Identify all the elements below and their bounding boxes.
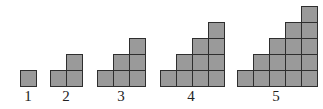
unit-square: [192, 54, 209, 71]
unit-square: [285, 38, 302, 55]
unit-square: [269, 54, 286, 71]
unit-square: [50, 70, 67, 87]
unit-square: [253, 70, 270, 87]
unit-square: [176, 54, 193, 71]
unit-square: [237, 70, 254, 87]
unit-square: [208, 22, 225, 39]
unit-square: [129, 70, 146, 87]
unit-square: [253, 54, 270, 71]
unit-square: [285, 54, 302, 71]
figure-label-1: 1: [13, 88, 43, 105]
unit-square: [285, 22, 302, 39]
unit-square: [192, 38, 209, 55]
unit-square: [269, 70, 286, 87]
unit-square: [66, 70, 83, 87]
figure-label-2: 2: [51, 88, 81, 105]
unit-square: [66, 54, 83, 71]
unit-square: [176, 70, 193, 87]
figure-label-4: 4: [176, 88, 206, 105]
unit-square: [301, 54, 318, 71]
unit-square: [113, 70, 130, 87]
figure-label-5: 5: [261, 88, 291, 105]
unit-square: [129, 38, 146, 55]
figure-label-3: 3: [106, 88, 136, 105]
unit-square: [301, 70, 318, 87]
unit-square: [208, 70, 225, 87]
unit-square: [301, 6, 318, 23]
unit-square: [301, 38, 318, 55]
unit-square: [208, 38, 225, 55]
unit-square: [97, 70, 114, 87]
unit-square: [129, 54, 146, 71]
unit-square: [208, 54, 225, 71]
unit-square: [20, 70, 37, 87]
unit-square: [113, 54, 130, 71]
unit-square: [269, 38, 286, 55]
unit-square: [285, 70, 302, 87]
unit-square: [160, 70, 177, 87]
unit-square: [192, 70, 209, 87]
unit-square: [301, 22, 318, 39]
